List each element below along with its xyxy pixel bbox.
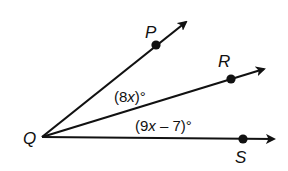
angle-rqs-suffix: – 7)° <box>156 117 192 134</box>
point-r-dot <box>226 74 235 83</box>
angle-rqs-prefix: (9 <box>135 117 148 134</box>
angle-pqr-prefix: (8 <box>114 88 127 105</box>
angle-diagram: P R S Q (8x)° (9x – 7)° <box>0 0 288 171</box>
point-s-dot <box>238 134 247 143</box>
ray-qs: S <box>42 134 274 167</box>
point-p-label: P <box>145 23 157 42</box>
point-r-label: R <box>218 52 230 71</box>
point-s-label: S <box>235 148 247 167</box>
angle-rqs-label: (9x – 7)° <box>135 117 192 134</box>
angle-pqr-label: (8x)° <box>114 88 146 105</box>
vertex-q-label: Q <box>23 129 36 148</box>
angle-pqr-suffix: )° <box>135 88 146 105</box>
